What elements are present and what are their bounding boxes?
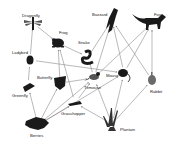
label-plantain: Plantain — [120, 128, 135, 132]
plantain-icon — [103, 108, 118, 131]
frog-icon — [52, 38, 64, 47]
buzzard-icon — [106, 8, 118, 33]
arrow-snake-to-buzzard — [91, 26, 108, 52]
arrow-butterfly-to-titmouse — [66, 79, 87, 82]
label-mouse: Mouse — [106, 74, 119, 78]
food-web-diagram: Dragonfly Frog Snake Buzzard Fox Ladybir… — [0, 0, 179, 147]
label-butterfly: Butterfly — [37, 76, 52, 80]
label-ladybird: Ladybird — [12, 51, 28, 55]
arrow-greenfly-to-ladybird — [28, 67, 29, 80]
arrow-rabbit-to-buzzard — [116, 26, 149, 75]
arrow-grasshopper-to-frog — [60, 50, 73, 97]
arrow-butterfly-to-frog — [58, 50, 59, 77]
butterfly-icon — [54, 76, 66, 90]
label-berries: Berries — [30, 134, 43, 138]
snake-icon — [82, 51, 93, 64]
label-greenfly: Greenfly — [12, 94, 28, 98]
label-dragonfly: Dragonfly — [22, 14, 40, 18]
label-frog: Frog — [59, 31, 68, 35]
food-web-svg — [0, 0, 179, 147]
arrow-mouse-to-buzzard — [114, 27, 123, 67]
label-fox: Fox — [154, 13, 161, 17]
greenfly-icon — [23, 83, 35, 92]
arrow-berries-to-greenfly — [30, 93, 37, 119]
label-rabbit: Rabbit — [150, 90, 162, 94]
arrow-frog-to-snake — [63, 46, 81, 55]
arrow-mouse-to-fox — [127, 29, 149, 68]
titmouse-icon — [84, 72, 100, 81]
arrow-titmouse-to-snake — [90, 64, 92, 73]
arrow-ladybird-to-mouse — [36, 61, 117, 72]
arrow-ladybird-to-dragonfly — [30, 30, 32, 54]
rabbit-icon — [148, 72, 156, 85]
label-snake: Snake — [78, 41, 90, 45]
arrow-plantain-to-rabbit — [116, 85, 147, 119]
arrow-titmouse-to-buzzard — [96, 27, 110, 73]
mouse-icon — [118, 69, 130, 82]
label-grasshopper: Grasshopper — [61, 112, 85, 116]
arrow-dragonfly-to-frog — [38, 27, 53, 39]
food-web-arrows — [28, 26, 152, 122]
grasshopper-icon — [68, 101, 82, 106]
label-buzzard: Buzzard — [92, 13, 107, 17]
arrow-plantain-to-mouse — [113, 80, 122, 118]
label-titmouse: Titmouse — [84, 86, 101, 90]
ladybird-icon — [27, 56, 34, 65]
